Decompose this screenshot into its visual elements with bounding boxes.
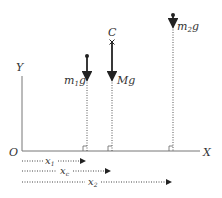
x2-distance-label: x2 bbox=[88, 176, 98, 188]
center-of-mass-label: C bbox=[108, 26, 117, 39]
right-angle-mark-m1 bbox=[83, 146, 87, 151]
right-angle-mark-c bbox=[108, 146, 112, 151]
origin-label: O bbox=[9, 146, 18, 159]
m2-weight-label: m2g bbox=[177, 20, 199, 34]
center-of-mass-diagram: Y X O m1g C Mg m2g x1 xc x2 bbox=[0, 0, 222, 198]
xc-distance-label: xc bbox=[60, 165, 70, 177]
right-angle-mark-m2 bbox=[169, 146, 173, 151]
x1-distance-label: x1 bbox=[45, 155, 54, 167]
x-axis-label: X bbox=[202, 146, 212, 159]
y-axis-label: Y bbox=[16, 61, 25, 74]
m1-weight-label: m1g bbox=[64, 74, 86, 88]
total-weight-label: Mg bbox=[116, 74, 135, 87]
